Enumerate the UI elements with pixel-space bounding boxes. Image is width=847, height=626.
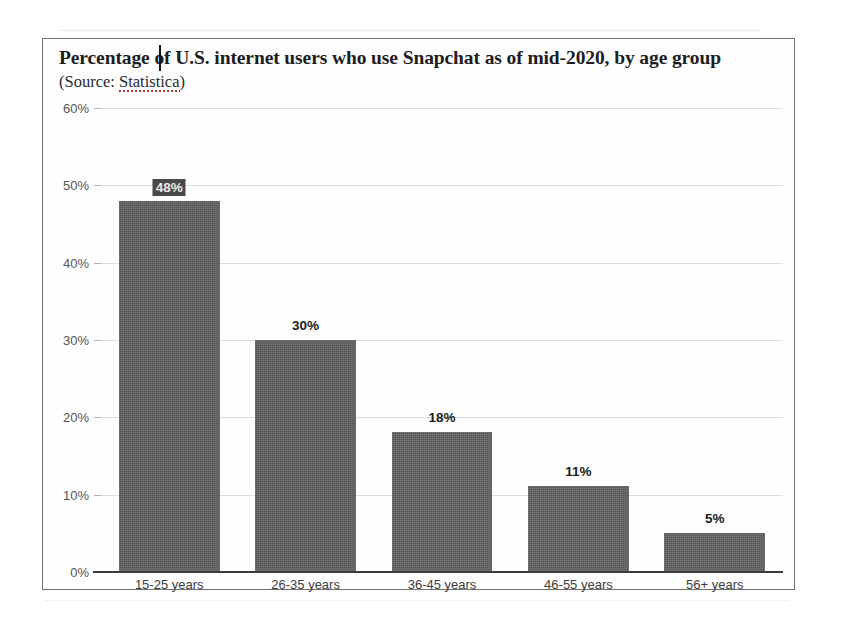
chart-title: Percentage of U.S. internet users who us…: [59, 47, 779, 69]
bar-value-label: 48%: [153, 179, 186, 196]
bar[interactable]: 30%: [255, 340, 356, 571]
bar-slot: 48%: [101, 109, 237, 571]
bar[interactable]: 5%: [664, 533, 765, 571]
scan-artifact-bottom: [44, 600, 789, 601]
chart-subtitle-source: (Source: Statistica): [59, 72, 185, 92]
scan-artifact-top: [60, 30, 760, 31]
y-axis-tick: [94, 108, 101, 109]
y-axis-tick: [94, 185, 101, 186]
text-cursor-caret: [159, 45, 161, 71]
category-label: 15-25 years: [101, 577, 237, 592]
bar[interactable]: 18%: [392, 432, 493, 571]
y-axis-tick-label: 50%: [63, 178, 89, 193]
category-label: 46-55 years: [510, 577, 646, 592]
bar-value-label: 11%: [565, 464, 591, 479]
y-axis-tick-label: 20%: [63, 410, 89, 425]
source-prefix: (Source:: [59, 72, 119, 91]
bar-slot: 18%: [374, 109, 510, 571]
bars-group: 48%30%18%11%5%: [101, 109, 783, 571]
x-axis-category-labels: 15-25 years26-35 years36-45 years46-55 y…: [101, 577, 783, 592]
y-axis-tick: [94, 263, 101, 264]
y-axis-tick-label: 60%: [63, 101, 89, 116]
bar-slot: 11%: [510, 109, 646, 571]
y-axis-tick: [94, 340, 101, 341]
category-label: 36-45 years: [374, 577, 510, 592]
bar-value-label: 30%: [292, 318, 319, 333]
y-axis-tick-label: 30%: [63, 333, 89, 348]
bar[interactable]: 11%: [528, 486, 629, 571]
bar-slot: 30%: [237, 109, 373, 571]
source-suffix: ): [180, 72, 186, 91]
bar-value-label: 5%: [705, 511, 725, 526]
x-axis-line: [93, 571, 783, 573]
y-axis-tick: [94, 417, 101, 418]
y-axis-tick-label: 10%: [63, 487, 89, 502]
y-axis-tick-label: 40%: [63, 255, 89, 270]
category-label: 26-35 years: [237, 577, 373, 592]
category-label: 56+ years: [647, 577, 783, 592]
bar-slot: 5%: [647, 109, 783, 571]
bar-value-label: 18%: [429, 410, 456, 425]
chart-figure-frame: Percentage of U.S. internet users who us…: [42, 38, 795, 590]
source-name-misspelled: Statistica: [119, 72, 180, 92]
plot-area: 0%10%20%30%40%50%60% 48%30%18%11%5%: [101, 109, 783, 573]
y-axis-tick-label: 0%: [70, 565, 89, 580]
y-axis-tick: [94, 495, 101, 496]
bar[interactable]: 48%: [119, 201, 220, 571]
